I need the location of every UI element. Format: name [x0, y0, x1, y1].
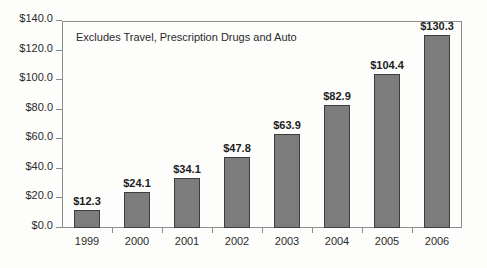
y-axis-tick-label: $0.0	[32, 220, 53, 231]
bar-slot: $24.1	[112, 21, 162, 228]
x-axis-tick-mark	[112, 228, 113, 233]
x-axis-tick-mark	[312, 228, 313, 233]
y-axis-tick-label: $100.0	[19, 72, 53, 83]
bar	[74, 210, 100, 228]
bar	[374, 74, 400, 228]
x-axis-tick-label: 2002	[225, 235, 249, 247]
bar	[324, 105, 350, 228]
bar-value-label: $104.4	[370, 59, 404, 71]
x-axis-tick-mark	[162, 228, 163, 233]
y-axis-tick-label: $60.0	[25, 131, 53, 142]
x-axis-tick-label: 1999	[75, 235, 99, 247]
bar	[124, 192, 150, 228]
y-axis-tick-label: $120.0	[19, 43, 53, 54]
bar-value-label: $130.3	[420, 20, 454, 32]
bar	[424, 35, 450, 228]
bar-value-label: $12.3	[73, 195, 101, 207]
x-axis-tick-mark	[412, 228, 413, 233]
x-axis-tick-mark	[262, 228, 263, 233]
x-axis-tick-label: 2001	[175, 235, 199, 247]
bar-value-label: $34.1	[173, 163, 201, 175]
y-axis: $0.0$20.0$40.0$60.0$80.0$100.0$120.0$140…	[0, 21, 62, 228]
x-axis-tick-label: 2006	[425, 235, 449, 247]
bar-chart-figure: $0.0$20.0$40.0$60.0$80.0$100.0$120.0$140…	[0, 0, 487, 268]
x-axis-tick-mark	[362, 228, 363, 233]
bar	[224, 157, 250, 228]
bar-slot: $63.9	[262, 21, 312, 228]
x-axis: 19992000200120022003200420052006	[62, 228, 462, 258]
bar	[274, 134, 300, 228]
bar-value-label: $24.1	[123, 177, 151, 189]
bar-value-label: $82.9	[323, 90, 351, 102]
bar-value-label: $47.8	[223, 142, 251, 154]
x-axis-tick-label: 2000	[125, 235, 149, 247]
bar	[174, 178, 200, 228]
x-axis-tick-label: 2004	[325, 235, 349, 247]
bar-slot: $82.9	[312, 21, 362, 228]
y-axis-tick-label: $80.0	[25, 102, 53, 113]
bar-slot: $47.8	[212, 21, 262, 228]
bar-slot: $130.3	[412, 21, 462, 228]
bar-slot: $12.3	[62, 21, 112, 228]
x-axis-tick-label: 2005	[375, 235, 399, 247]
y-axis-tick-label: $140.0	[19, 13, 53, 24]
bar-slot: $104.4	[362, 21, 412, 228]
x-axis-tick-label: 2003	[275, 235, 299, 247]
y-axis-tick-label: $20.0	[25, 190, 53, 201]
chart-annotation: Excludes Travel, Prescription Drugs and …	[76, 31, 297, 44]
bars-layer: $12.3$24.1$34.1$47.8$63.9$82.9$104.4$130…	[62, 21, 462, 228]
bar-slot: $34.1	[162, 21, 212, 228]
bar-value-label: $63.9	[273, 119, 301, 131]
y-axis-tick-label: $40.0	[25, 161, 53, 172]
x-axis-tick-mark	[212, 228, 213, 233]
